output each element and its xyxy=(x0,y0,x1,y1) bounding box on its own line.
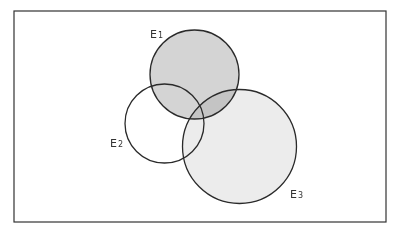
venn-diagram: E1E2E3 xyxy=(0,0,396,237)
